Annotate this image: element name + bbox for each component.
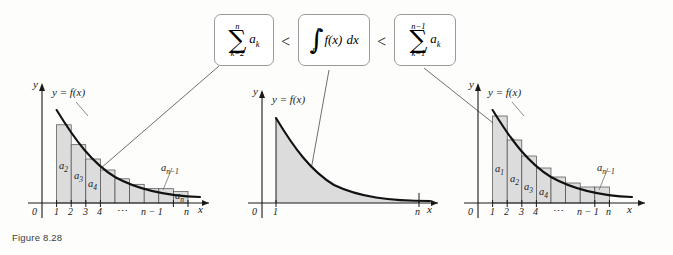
left-tick-4: 4: [97, 206, 102, 217]
right-rectangles: [493, 116, 610, 203]
right-tick-n-minus-1: n − 1: [577, 206, 599, 217]
left-rect-label-a2: a2: [59, 160, 68, 174]
left-y-arrow: [39, 83, 45, 91]
sigma-with-limits-2: n−1 ∑ k=1: [409, 22, 427, 58]
right-y-arrow: [475, 83, 481, 91]
relation-less-than-1: <: [281, 33, 290, 51]
middle-x-arrow: [431, 200, 438, 206]
formula-box-integral: n ∫ 1 f(x) dx: [298, 14, 370, 66]
middle-y-arrow: [259, 90, 265, 98]
right-tick-ellipsis: ⋯: [553, 205, 565, 218]
right-tick-n: n: [606, 206, 611, 217]
right-y-axis-label: y: [469, 78, 474, 90]
left-tick-1: 1: [54, 206, 59, 217]
upper-sum-expression: n−1 ∑ k=1 ak: [409, 22, 440, 58]
right-tick-3: 3: [519, 206, 524, 217]
right-tick-4: 4: [533, 206, 538, 217]
sigma-with-limits: n ∑ k=2: [228, 22, 246, 58]
right-rect-label-a4: a4: [539, 186, 548, 200]
right-curve-pointer: [512, 102, 524, 116]
middle-curve-label: y = f(x): [272, 93, 305, 105]
lower-sum-expression: n ∑ k=2 ak: [228, 22, 259, 58]
formula-box-upper-sum: n−1 ∑ k=1 ak: [394, 14, 456, 66]
left-rect-label-an: an: [175, 190, 184, 204]
right-tick-2: 2: [504, 206, 509, 217]
sigma-icon-2: ∑: [409, 30, 427, 51]
left-tick-n-minus-1: n − 1: [141, 206, 163, 217]
integrand: f(x): [324, 32, 342, 48]
left-rect-label-a4: a4: [88, 178, 97, 192]
right-origin-label: 0: [468, 206, 473, 217]
right-graph: [464, 83, 645, 218]
right-x-arrow: [638, 200, 645, 206]
left-tick-3: 3: [83, 206, 88, 217]
left-rect-label-a3: a3: [74, 170, 83, 184]
right-curve-label: y = f(x): [488, 86, 521, 98]
formula-box-lower-sum: n ∑ k=2 ak: [214, 14, 274, 66]
sum-term: ak: [249, 31, 259, 49]
left-rect-label-an-1: an−1: [161, 162, 179, 176]
leader-line-middle: [311, 70, 329, 170]
left-curve-label: y = f(x): [52, 86, 85, 98]
left-x-arrow: [202, 200, 209, 206]
left-tick-2: 2: [68, 206, 73, 217]
middle-tick-n: n: [415, 206, 420, 217]
middle-graph: [248, 90, 438, 218]
sum-term-2: ak: [430, 31, 440, 49]
middle-y-axis-label: y: [253, 85, 258, 97]
relation-less-than-2: <: [377, 33, 386, 51]
right-tick-1: 1: [490, 206, 495, 217]
integral-lower-limit: 1: [311, 47, 315, 56]
right-rect-label-an-1: an−1: [597, 162, 615, 176]
middle-tick-1: 1: [273, 206, 278, 217]
sigma-icon: ∑: [228, 30, 246, 51]
integral-expression: n ∫ 1 f(x) dx: [309, 25, 358, 56]
left-curve-pointer: [76, 102, 88, 116]
left-y-axis-label: y: [33, 78, 38, 90]
right-rect-label-a2: a2: [510, 173, 519, 187]
left-tick-n: n: [184, 206, 189, 217]
leader-line-left: [86, 66, 219, 181]
left-tick-ellipsis: ⋯: [117, 205, 129, 218]
right-rect-label-a3: a3: [524, 181, 533, 195]
middle-x-axis-label: x: [427, 203, 432, 215]
middle-origin-label: 0: [252, 206, 257, 217]
right-rect-label-a1: a1: [495, 163, 504, 177]
integral-with-limits: n ∫ 1: [309, 25, 323, 56]
sum-lower-limit: k=2: [230, 49, 244, 58]
figure-caption: Figure 8.28: [12, 232, 62, 243]
right-x-axis-label: x: [627, 203, 632, 215]
differential: dx: [346, 32, 358, 48]
left-origin-label: 0: [32, 206, 37, 217]
left-x-axis-label: x: [198, 203, 203, 215]
figure-8-28: n ∑ k=2 ak < n ∫ 1 f(x) dx <: [0, 0, 673, 255]
sum-lower-limit-2: k=1: [411, 49, 425, 58]
